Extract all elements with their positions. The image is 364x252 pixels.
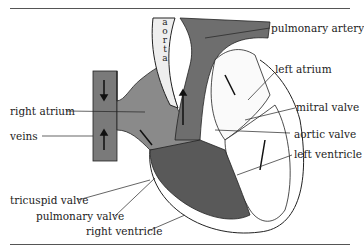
- veins-shape: [93, 71, 117, 161]
- aorta-label-text: a o r t a: [162, 17, 167, 63]
- left-ventricle-label: left ventricle: [294, 148, 362, 160]
- pulmonary-artery-label: pulmonary artery: [271, 22, 364, 34]
- left-atrium-label: left atrium: [275, 63, 332, 75]
- pulmonary-valve-label: pulmonary valve: [36, 210, 124, 222]
- tricuspid-valve-label: tricuspid valve: [10, 194, 88, 206]
- mitral-valve-label: mitral valve: [296, 101, 359, 113]
- aorta-label: a o r t a: [160, 18, 170, 63]
- right-ventricle-label: right ventricle: [86, 225, 162, 237]
- veins-label: veins: [10, 130, 38, 142]
- aortic-valve-label: aortic valve: [294, 128, 356, 140]
- right-atrium-label: right atrium: [10, 105, 75, 117]
